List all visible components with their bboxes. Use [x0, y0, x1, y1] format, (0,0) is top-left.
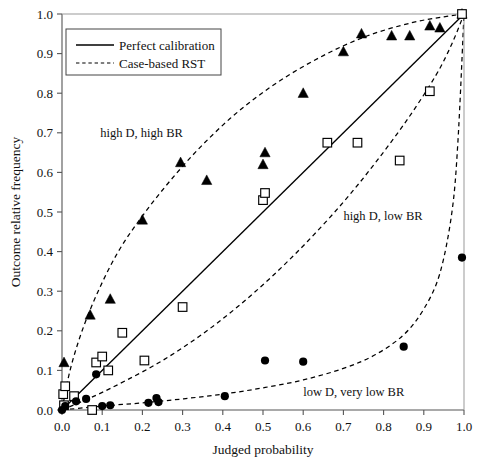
- data-point-triangle: [202, 175, 212, 185]
- data-point-circle: [92, 370, 100, 378]
- data-point-triangle: [85, 310, 95, 320]
- x-tick-label: 0.1: [94, 419, 110, 434]
- y-tick-label: 0.0: [37, 403, 53, 418]
- y-axis-title: Outcome relative frequency: [8, 136, 23, 287]
- x-tick-label: 0.3: [174, 419, 190, 434]
- data-point-square: [261, 189, 270, 198]
- data-point-square: [353, 138, 362, 147]
- y-tick-label: 0.8: [37, 86, 53, 101]
- y-tick-label: 0.5: [37, 205, 53, 220]
- y-tick-label: 0.7: [37, 125, 54, 140]
- data-point-triangle: [137, 215, 147, 225]
- y-tick-label: 0.1: [37, 363, 53, 378]
- data-point-triangle: [260, 147, 270, 157]
- data-point-circle: [299, 358, 307, 366]
- data-point-circle: [400, 343, 408, 351]
- y-tick-label: 0.2: [37, 323, 53, 338]
- data-point-triangle: [387, 30, 397, 40]
- data-point-triangle: [435, 22, 445, 32]
- data-point-circle: [221, 392, 229, 400]
- x-tick-label: 0.4: [215, 419, 232, 434]
- data-point-triangle: [425, 20, 435, 30]
- data-point-circle: [82, 395, 90, 403]
- data-point-circle: [144, 399, 152, 407]
- data-point-square: [61, 382, 70, 391]
- x-tick-label: 0.5: [255, 419, 271, 434]
- data-point-triangle: [338, 46, 348, 56]
- data-point-square: [426, 87, 435, 96]
- data-point-triangle: [356, 28, 366, 38]
- chart-annotation: low D, very low BR: [303, 385, 405, 399]
- data-point-circle: [98, 402, 106, 410]
- data-point-square: [98, 352, 107, 361]
- y-tick-label: 0.3: [37, 284, 53, 299]
- data-point-triangle: [175, 157, 185, 167]
- x-tick-label: 0.9: [416, 419, 432, 434]
- data-point-square: [458, 10, 467, 19]
- x-axis-title: Judged probability: [213, 442, 314, 457]
- data-point-circle: [61, 402, 69, 410]
- x-tick-label: 1.0: [456, 419, 472, 434]
- data-point-square: [140, 356, 149, 365]
- x-tick-label: 0.8: [375, 419, 391, 434]
- data-point-square: [395, 156, 404, 165]
- calibration-chart: 0.00.10.20.30.40.50.60.70.80.91.00.00.10…: [0, 0, 486, 467]
- legend-label: Perfect calibration: [119, 38, 215, 53]
- x-tick-label: 0.0: [54, 419, 70, 434]
- chart-annotation: high D, high BR: [100, 126, 183, 140]
- chart-svg: 0.00.10.20.30.40.50.60.70.80.91.00.00.10…: [0, 0, 486, 467]
- data-point-square: [104, 366, 113, 375]
- data-point-circle: [458, 253, 466, 261]
- chart-legend: Perfect calibrationCase-based RST: [66, 29, 221, 75]
- data-point-square: [178, 303, 187, 312]
- data-point-triangle: [298, 88, 308, 98]
- y-tick-label: 1.0: [37, 7, 53, 22]
- data-point-circle: [261, 356, 269, 364]
- data-point-circle: [106, 401, 114, 409]
- data-point-circle: [72, 397, 80, 405]
- data-point-square: [323, 138, 332, 147]
- data-point-square: [88, 406, 97, 415]
- y-tick-label: 0.9: [37, 46, 53, 61]
- x-tick-label: 0.2: [134, 419, 150, 434]
- legend-label: Case-based RST: [119, 56, 205, 71]
- data-point-square: [118, 328, 127, 337]
- data-point-triangle: [105, 294, 115, 304]
- y-tick-label: 0.4: [37, 244, 54, 259]
- data-point-triangle: [405, 30, 415, 40]
- data-point-square: [59, 390, 68, 399]
- x-tick-label: 0.7: [335, 419, 352, 434]
- chart-annotation: high D, low BR: [343, 209, 423, 223]
- data-point-triangle: [59, 357, 69, 367]
- y-tick-label: 0.6: [37, 165, 54, 180]
- x-tick-label: 0.6: [295, 419, 312, 434]
- data-point-circle: [154, 398, 162, 406]
- data-point-triangle: [258, 159, 268, 169]
